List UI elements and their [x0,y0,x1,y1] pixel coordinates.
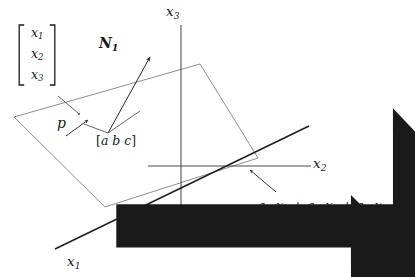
eq-var-x2-sub: 2 [333,204,338,214]
eq-rhs-b-sub: 1 [344,225,349,235]
column-vector-label: x1 x2 x3 [18,24,56,86]
row-vector-entry-a: a [101,133,108,148]
position-vector-label: p [57,116,66,130]
position-vector-letter: p [57,116,66,130]
column-vector-close-bracket [49,24,56,86]
column-vector-open-bracket [18,24,25,86]
plane-equation-line1: a11x1 + a12x2 + a13x3 [258,196,387,217]
normal-vector-sub: 1 [112,42,119,53]
eq-var-x3: x [375,198,382,213]
eq-vector-x-letter: x [310,217,317,236]
eq-operator-1: + [293,198,303,213]
eq-equals-1: = [258,219,268,234]
eq-vector-x-glyph: x [310,217,317,236]
axis-label-x3-letter: x [166,3,174,19]
normal-vector-letter: N [99,36,112,50]
axis-label-x3-sub: 3 [174,10,180,21]
eq-var-x1-sub: 1 [283,204,288,214]
plane-equation: a11x1 + a12x2 + a13x3 = a 1*T · [258,196,387,237]
eq-var-x2: x [326,198,333,213]
normal-vector-label-glyph: N [99,36,112,50]
axis-label-x2: x2 [313,157,326,172]
axis-label-x1-sub: 1 [75,260,81,271]
eq-vector-a-transpose: T [289,218,295,228]
column-vector-leader [58,96,78,113]
row-vector-label: [a b c] [96,135,136,148]
normal-base-leader [108,111,140,133]
axis-label-x3: x3 [166,5,179,20]
column-vector-entry-1: x1 [31,27,43,41]
axis-label-x2-letter: x [313,155,321,171]
eq-equals-2: = [321,219,331,234]
normal-vector-label: N 1 [99,36,118,52]
eq-coef-a11-sub: 11 [265,204,276,214]
column-vector-entries: x1 x2 x3 [25,24,49,86]
eq-vector-a-glyph: a [272,217,279,236]
axis-label-x1-letter: x [67,253,75,269]
geometry-diagram: x3 x2 x1 N 1 p [0,0,415,277]
axis-label-x1: x1 [67,255,80,270]
eq-coef-a13: a [356,198,363,213]
column-vector-entry-3: x3 [31,69,43,83]
equation-leader-arrow [250,170,276,192]
eq-vector-a-letter: a [272,217,279,236]
column-vector-leader-dot [78,113,80,115]
position-vector-tail [84,124,108,133]
column-vector-entry-2: x2 [31,48,43,62]
row-vector-close-bracket: ] [131,133,136,148]
row-vector-entry-b: b [112,133,120,148]
eq-rhs-b: b [336,219,344,234]
eq-operator-2: + [342,198,352,213]
eq-var-x3-sub: 3 [382,204,387,214]
position-vector-arrow [66,120,88,136]
axis-label-x2-sub: 2 [321,162,327,173]
position-vector-label-glyph: p [57,116,66,130]
eq-coef-a12-sub: 12 [315,204,326,214]
eq-vector-a-sub: 1* [280,226,289,235]
eq-coef-a12: a [307,198,314,213]
eq-coef-a13-sub: 13 [364,204,375,214]
plane-equation-line2: = a 1*T · x = [258,217,387,238]
normal-vector-arrow [108,57,150,133]
eq-dot-product-operator: · [298,219,306,234]
